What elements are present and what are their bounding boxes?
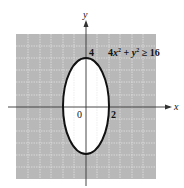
y-tick-label: 4 [89,48,94,58]
inequality-label: 4x2 + y2 ≥ 16 [108,47,160,58]
y-axis-arrow-icon [84,20,89,27]
inequality-rel: ≥ 16 [139,47,160,58]
x-axis-arrow-icon [165,105,172,110]
x-tick-label: 2 [111,110,116,120]
x-axis-label: x [174,102,178,112]
graph [0,0,184,188]
inequality-plus: + [121,47,132,58]
origin-label: 0 [77,110,82,120]
y-axis-label: y [83,10,87,20]
